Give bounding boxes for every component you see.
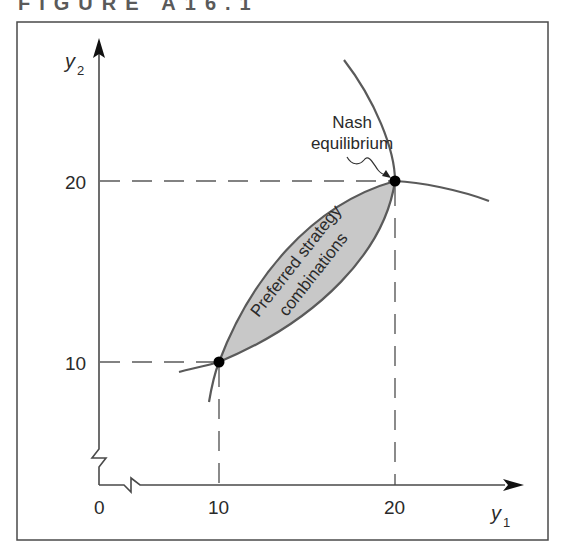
x-axis (99, 478, 505, 492)
nash-label-line2: equilibrium (311, 134, 393, 153)
y-axis (92, 52, 106, 485)
x-tick-20: 20 (384, 497, 405, 518)
y-tick-10: 10 (65, 353, 86, 374)
x-axis-label: y (489, 502, 502, 524)
nash-equilibrium-point (390, 176, 401, 187)
x-tick-0: 0 (94, 497, 105, 518)
x-axis-label-sub: 1 (503, 515, 510, 530)
x-tick-10: 10 (208, 497, 229, 518)
y-axis-label: y (63, 50, 76, 72)
point-10-10 (214, 357, 225, 368)
nash-pointer-arrow (347, 157, 388, 176)
y-axis-label-sub: 2 (77, 63, 84, 78)
diagram-canvas: y 2 y 1 20 10 0 10 20 Nash equilibrium P… (0, 0, 566, 556)
x-axis-arrow-icon (503, 479, 524, 491)
nash-label-line1: Nash (332, 113, 372, 132)
nash-pointer-arrowhead-icon (382, 170, 391, 178)
y-tick-20: 20 (65, 172, 86, 193)
